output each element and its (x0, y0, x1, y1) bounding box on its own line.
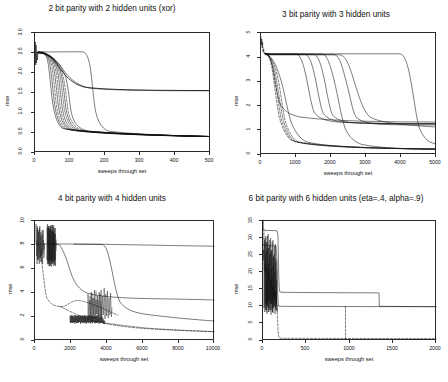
plot-area-4bit: 0 2 4 6 8 10 0 2000 4000 6000 8000 10000… (34, 220, 214, 340)
xtick-mark (435, 154, 436, 157)
xtick-label: 2000 (58, 345, 82, 351)
ytick-mark (31, 52, 34, 53)
xtick-mark (262, 340, 263, 343)
ytick-label: 0.5 (17, 123, 23, 139)
xtick-mark (213, 340, 214, 343)
ytick-mark (31, 72, 34, 73)
xtick-mark (349, 340, 350, 343)
ytick-label: 10 (19, 212, 25, 228)
panel-title-3bit: 3 bit parity with 3 hidden units (224, 10, 448, 20)
ytick-mark (259, 271, 262, 272)
xtick-label: 500 (197, 157, 221, 163)
xtick-label: 500 (293, 345, 317, 351)
xtick-mark (435, 340, 436, 343)
ytick-label: 3 (245, 73, 251, 87)
xlabel-3bit: sweeps through set (260, 170, 436, 176)
ytick-label: 4 (19, 284, 25, 298)
ytick-label: 2.0 (17, 63, 23, 79)
xtick-mark (106, 340, 107, 343)
xlabel-6bit: sweeps through set (262, 356, 436, 362)
xtick-mark (209, 152, 210, 155)
panel-title-6bit: 6 bit parity with 6 hidden units (eta=.4… (224, 194, 448, 204)
ytick-mark (259, 288, 262, 289)
ytick-mark (31, 244, 34, 245)
curves-6bit (262, 220, 436, 340)
ytick-label: 2.5 (17, 43, 23, 59)
ytick-label: 30 (247, 229, 253, 245)
ytick-mark (31, 268, 34, 269)
ytick-label: 5 (245, 25, 251, 39)
xtick-label: 1000 (337, 345, 361, 351)
panel-3bit-parity: 3 bit parity with 3 hidden units (224, 10, 448, 191)
ytick-mark (31, 92, 34, 93)
xtick-mark (142, 340, 143, 343)
ytick-mark (31, 316, 34, 317)
ytick-mark (31, 112, 34, 113)
ytick-mark (31, 32, 34, 33)
ytick-label: 1.0 (17, 103, 23, 119)
ytick-label: 2 (19, 308, 25, 322)
xtick-mark (34, 340, 35, 343)
plot-area-3bit: 0 1 2 3 4 5 0 1000 2000 3000 4000 5000 m… (260, 32, 436, 154)
ylabel-6bit: mse (233, 284, 239, 294)
xtick-label: 10000 (200, 345, 226, 351)
ylabel-4bit: mse (7, 284, 13, 294)
curves-3bit (260, 32, 436, 154)
curves-4bit (34, 220, 214, 340)
ytick-label: 8 (19, 236, 25, 250)
xtick-mark (295, 154, 296, 157)
ytick-mark (257, 32, 260, 33)
ytick-mark (259, 305, 262, 306)
xtick-label: 8000 (166, 345, 190, 351)
xtick-label: 0 (22, 157, 46, 163)
xtick-label: 0 (22, 345, 46, 351)
ytick-mark (257, 129, 260, 130)
ytick-label: 25 (247, 246, 253, 262)
ytick-mark (259, 237, 262, 238)
ytick-mark (31, 292, 34, 293)
ytick-label: 1 (245, 122, 251, 136)
ytick-label: 5 (247, 315, 253, 329)
ytick-mark (259, 254, 262, 255)
xtick-mark (305, 340, 306, 343)
xtick-mark (392, 340, 393, 343)
xtick-label: 3000 (353, 159, 377, 165)
ytick-label: 20 (247, 263, 253, 279)
xtick-label: 1000 (283, 159, 307, 165)
plot-area-6bit: 0 5 10 15 20 25 30 35 0 500 1000 1500 20… (262, 220, 436, 340)
panel-6bit-parity: 6 bit parity with 6 hidden units (eta=.4… (224, 194, 448, 382)
ytick-label: 35 (247, 212, 253, 228)
ytick-label: 0 (245, 146, 251, 160)
xtick-mark (69, 152, 70, 155)
ylabel-2bit: mse (4, 96, 10, 106)
xtick-mark (330, 154, 331, 157)
plot-area-2bit: 0.0 0.5 1.0 1.5 2.0 2.5 3.0 0 100 200 30… (34, 32, 210, 152)
ytick-mark (257, 105, 260, 106)
xtick-mark (139, 152, 140, 155)
xtick-mark (174, 152, 175, 155)
xtick-mark (34, 152, 35, 155)
ytick-label: 4 (245, 49, 251, 63)
panel-title-4bit: 4 bit parity with 4 hidden units (0, 194, 224, 204)
ytick-mark (259, 220, 262, 221)
ytick-mark (31, 220, 34, 221)
ytick-mark (257, 81, 260, 82)
ytick-label: 2 (245, 98, 251, 112)
xtick-label: 6000 (130, 345, 154, 351)
ylabel-3bit: mse (233, 96, 239, 106)
xtick-mark (365, 154, 366, 157)
ytick-mark (257, 57, 260, 58)
xlabel-4bit: sweeps through set (34, 356, 214, 362)
curves-2bit (34, 32, 210, 152)
xtick-label: 2000 (318, 159, 342, 165)
xtick-label: 5000 (423, 159, 447, 165)
xtick-label: 200 (92, 157, 116, 163)
xtick-mark (104, 152, 105, 155)
xtick-mark (400, 154, 401, 157)
ytick-label: 1.5 (17, 83, 23, 99)
xtick-label: 0 (248, 159, 272, 165)
parity-learning-curves-figure: 2 bit parity with 2 hidden units (xor) (0, 0, 448, 382)
xtick-label: 400 (162, 157, 186, 163)
xlabel-2bit: sweeps through set (34, 168, 210, 174)
xtick-label: 0 (250, 345, 274, 351)
